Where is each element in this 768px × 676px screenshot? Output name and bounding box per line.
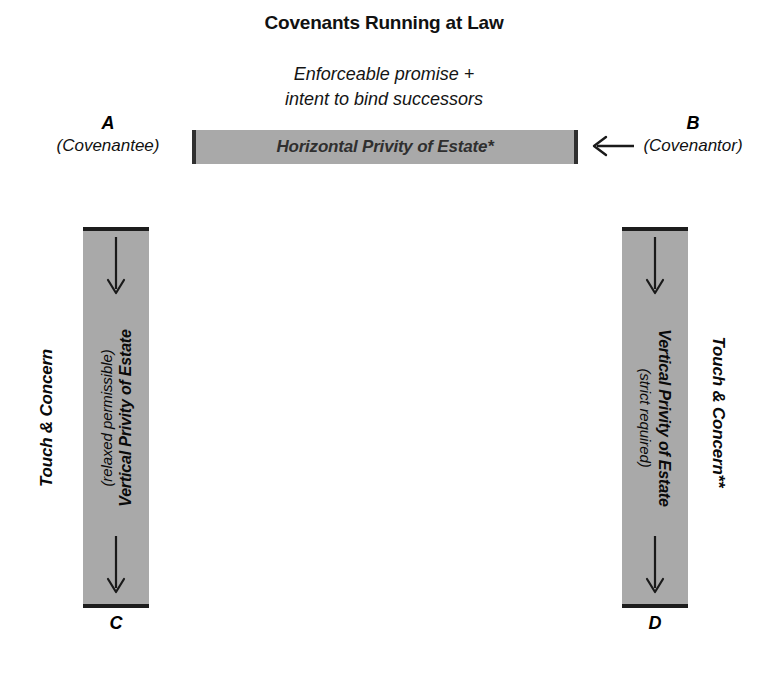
down-arrow-icon	[642, 237, 668, 299]
node-d: D	[622, 612, 688, 634]
node-b-role: (Covenantor)	[628, 134, 758, 157]
node-b: B (Covenantor)	[628, 112, 758, 157]
page-title: Covenants Running at Law	[0, 12, 768, 34]
down-arrow-icon	[103, 536, 129, 598]
covenants-running-at-law-diagram: Covenants Running at Law Enforceable pro…	[0, 0, 768, 676]
down-arrow-icon	[642, 536, 668, 598]
node-a: A (Covenantee)	[38, 112, 178, 157]
subtitle-line-1: Enforceable promise +	[294, 64, 475, 84]
right-vertical-privity-sub: (strict required)	[636, 329, 655, 506]
down-arrow-icon	[103, 237, 129, 299]
right-touch-and-concern-label: Touch & Concern**	[708, 337, 728, 488]
left-vertical-privity-text: Vertical Privity of Estate (relaxed perm…	[97, 329, 135, 506]
right-vertical-privity-main: Vertical Privity of Estate	[655, 329, 674, 506]
subtitle: Enforceable promise + intent to bind suc…	[0, 62, 768, 112]
left-vertical-privity-main: Vertical Privity of Estate	[116, 329, 135, 506]
left-vertical-privity-bar: Vertical Privity of Estate (relaxed perm…	[83, 227, 149, 608]
node-a-letter: A	[38, 112, 178, 134]
left-arrow-icon	[588, 133, 636, 159]
node-a-role: (Covenantee)	[38, 134, 178, 157]
horizontal-privity-label: Horizontal Privity of Estate*	[276, 137, 493, 157]
right-vertical-privity-bar: Vertical Privity of Estate (strict requi…	[622, 227, 688, 608]
right-vertical-privity-text: Vertical Privity of Estate (strict requi…	[636, 329, 674, 506]
left-vertical-privity-sub: (relaxed permissible)	[97, 329, 116, 506]
node-c-letter: C	[83, 612, 149, 634]
subtitle-line-2: intent to bind successors	[0, 87, 768, 112]
node-d-letter: D	[622, 612, 688, 634]
node-b-letter: B	[628, 112, 758, 134]
horizontal-privity-bar: Horizontal Privity of Estate*	[192, 130, 578, 164]
node-c: C	[83, 612, 149, 634]
left-touch-and-concern-label: Touch & Concern	[37, 349, 57, 487]
